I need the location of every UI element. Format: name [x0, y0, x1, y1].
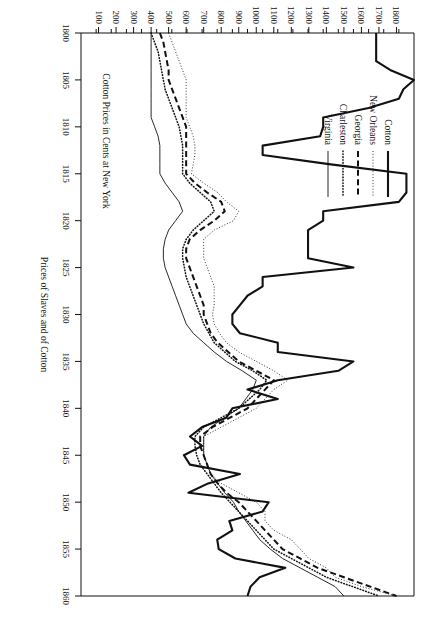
y-dollars-tick-label: 900 [234, 11, 244, 25]
x-axis-tick-label: 1800 [61, 24, 71, 43]
x-axis-tick-label: 1835 [61, 352, 71, 371]
legend-label-virginia: Virginia [323, 114, 333, 146]
chart-title: Prices of Slaves and of Cotton [39, 257, 49, 373]
y-dollars-tick-label: 1500 [339, 6, 349, 25]
x-axis-tick-label: 1825 [61, 259, 71, 278]
y-dollars-tick-label: 1200 [286, 6, 296, 25]
y-dollars-tick-label: 1400 [321, 6, 331, 25]
legend-label-cotton: Cotton [383, 119, 393, 145]
y-dollars-tick-label: 800 [216, 11, 226, 25]
y-dollars-tick-label: 500 [164, 11, 174, 25]
y-dollars-tick-label: 1300 [304, 6, 314, 25]
x-axis-tick-label: 1820 [61, 212, 71, 231]
legend-label-new-orleans: New Orleans [368, 95, 378, 145]
cotton-cents-axis-label: Cotton Prices in Cents at New York [101, 73, 111, 209]
y-dollars-tick-label: 700 [199, 11, 209, 25]
x-axis-tick-label: 1850 [61, 493, 71, 512]
y-dollars-tick-label: 300 [129, 11, 139, 25]
y-dollars-tick-label: 600 [181, 11, 191, 25]
x-axis-tick-label: 1845 [61, 446, 71, 465]
x-axis-tick-label: 1860 [61, 587, 71, 606]
x-axis-tick-label: 1855 [61, 540, 71, 559]
x-axis-tick-label: 1815 [61, 165, 71, 184]
x-axis-tick-label: 1810 [61, 118, 71, 137]
rotated-chart-container: 1800180518101815182018251830183518401845… [0, 0, 429, 617]
y-dollars-tick-label: 400 [146, 11, 156, 25]
figure-page: 1800180518101815182018251830183518401845… [0, 0, 429, 617]
x-axis-tick-label: 1830 [61, 306, 71, 325]
y-dollars-tick-label: 1800 [391, 6, 401, 25]
y-dollars-tick-label: 1100 [269, 6, 279, 24]
prices-of-slaves-and-cotton-chart: 1800180518101815182018251830183518401845… [0, 0, 429, 617]
legend-label-charleston: Charleston [338, 104, 348, 145]
y-dollars-tick-label: 200 [111, 11, 121, 25]
x-axis-tick-label: 1840 [61, 399, 71, 418]
y-dollars-tick-label: 1000 [251, 6, 261, 25]
x-axis-tick-label: 1805 [61, 71, 71, 90]
legend-label-georgia: Georgia [353, 115, 363, 146]
y-dollars-tick-label: 1700 [374, 6, 384, 25]
y-dollars-tick-label: 1600 [356, 6, 366, 25]
y-dollars-tick-label: 100 [94, 11, 104, 25]
